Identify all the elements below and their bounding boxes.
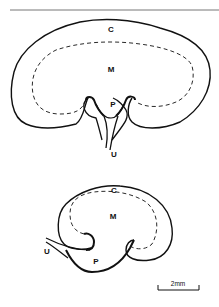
bottom-kidney-pelvis-hook bbox=[84, 233, 94, 250]
top-label-pelvis: P bbox=[110, 100, 116, 109]
top-kidney-ureter bbox=[104, 116, 118, 150]
top-label-medulla: M bbox=[108, 65, 115, 74]
bottom-kidney: C M U P bbox=[44, 186, 172, 272]
scale-bar: 2mm bbox=[158, 280, 199, 290]
top-label-ureter: U bbox=[111, 150, 117, 159]
bottom-kidney-outer-contour bbox=[58, 186, 172, 261]
bottom-label-cortex: C bbox=[111, 186, 117, 195]
bottom-label-pelvis: P bbox=[93, 257, 99, 266]
kidney-diagram: C M P U C M U P 2mm bbox=[0, 0, 219, 307]
bottom-kidney-pelvis bbox=[66, 240, 134, 272]
scale-bar-label: 2mm bbox=[171, 280, 185, 287]
bottom-label-medulla: M bbox=[110, 212, 117, 221]
bottom-label-ureter: U bbox=[44, 247, 50, 256]
top-label-cortex: C bbox=[108, 25, 114, 34]
top-kidney: C M P U bbox=[11, 20, 210, 159]
